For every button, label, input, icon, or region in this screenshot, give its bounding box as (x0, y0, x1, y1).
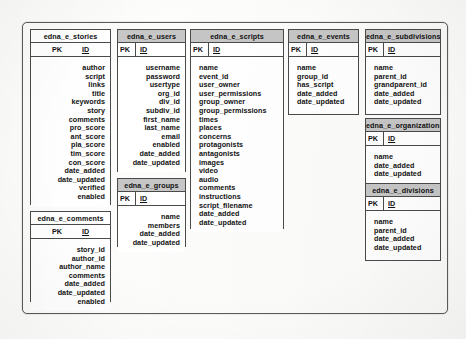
field-row: date_updated (374, 244, 435, 253)
entity-title-groups: edna_e_groups (118, 179, 185, 192)
entity-title-stories: edna_e_stories (31, 30, 110, 43)
entity-title-subdivisions: edna_e_subdivisions (366, 30, 440, 43)
pk-label-events: PK (291, 45, 306, 54)
pk-divider (383, 43, 384, 56)
entity-edna-e-subdivisions[interactable]: edna_e_subdivisions PK ID name parent_id… (365, 29, 441, 115)
entity-fields-users: username password usertype org_id div_id… (118, 57, 185, 172)
field-row: date_updated (297, 98, 353, 107)
entity-key-row-subdivisions: PK ID (366, 43, 440, 57)
pk-id-stories: ID (82, 45, 89, 54)
entity-edna-e-comments[interactable]: edna_e_comments PK ID story_id author_id… (30, 211, 111, 302)
entity-key-row-scripts: PK ID (191, 43, 283, 57)
entity-title-scripts: edna_e_scripts (191, 30, 283, 43)
entity-title-users: edna_e_users (118, 30, 185, 43)
pk-id-divisions: ID (388, 199, 395, 208)
pk-divider (383, 132, 384, 145)
field-row: enabled (36, 193, 105, 202)
pk-divider (208, 43, 209, 56)
entity-edna-e-stories[interactable]: edna_e_stories PK ID author script links… (30, 29, 111, 205)
field-row: date_updated (374, 170, 435, 179)
entity-key-row-stories: PK ID (31, 43, 110, 57)
entity-key-row-divisions: PK ID (366, 197, 440, 211)
pk-id-subdivisions: ID (388, 45, 395, 54)
pk-label-groups: PK (120, 194, 135, 203)
entity-fields-comments: story_id author_id author_name comments … (31, 239, 110, 311)
er-diagram-canvas: edna_e_stories PK ID author script links… (0, 0, 466, 339)
pk-label-organizations: PK (368, 134, 383, 143)
field-row: date_updated (374, 98, 435, 107)
entity-key-row-comments: PK ID (31, 225, 110, 239)
field-row: date_updated (199, 219, 278, 228)
pk-divider (135, 43, 136, 56)
pk-label-divisions: PK (368, 199, 383, 208)
pk-label-stories: PK (52, 45, 62, 54)
entity-fields-stories: author script links title keywords story… (31, 57, 110, 207)
pk-id-comments: ID (82, 227, 89, 236)
entity-title-organizations: edna_e_organizations (366, 119, 440, 132)
entity-fields-events: name group_id has_script date_added date… (289, 57, 358, 112)
field-row: enabled (36, 298, 105, 307)
entity-title-events: edna_e_events (289, 30, 358, 43)
field-row: date_updated (123, 239, 180, 248)
pk-divider (135, 192, 136, 205)
pk-label-comments: PK (52, 227, 62, 236)
entity-fields-groups: name members date_added date_updated (118, 206, 185, 252)
entity-edna-e-events[interactable]: edna_e_events PK ID name group_id has_sc… (288, 29, 359, 115)
entity-key-row-events: PK ID (289, 43, 358, 57)
entity-fields-scripts: name event_id user_owner user_permission… (191, 57, 283, 232)
field-row: date_updated (123, 159, 180, 168)
pk-label-scripts: PK (193, 45, 208, 54)
entity-fields-divisions: name parent_id date_added date_updated (366, 211, 440, 257)
pk-id-groups: ID (140, 194, 147, 203)
entity-edna-e-users[interactable]: edna_e_users PK ID username password use… (117, 29, 186, 172)
entity-edna-e-divisions[interactable]: edna_e_divisions PK ID name parent_id da… (365, 183, 441, 261)
pk-id-events: ID (311, 45, 318, 54)
entity-fields-organizations: name date_added date_updated (366, 146, 440, 184)
entity-edna-e-groups[interactable]: edna_e_groups PK ID name members date_ad… (117, 178, 186, 247)
pk-label-users: PK (120, 45, 135, 54)
entity-title-comments: edna_e_comments (31, 212, 110, 225)
pk-id-users: ID (140, 45, 147, 54)
pk-id-scripts: ID (213, 45, 220, 54)
pk-divider (306, 43, 307, 56)
entity-key-row-users: PK ID (118, 43, 185, 57)
pk-label-subdivisions: PK (368, 45, 383, 54)
entity-edna-e-scripts[interactable]: edna_e_scripts PK ID name event_id user_… (190, 29, 284, 229)
pk-id-organizations: ID (388, 134, 395, 143)
entity-title-divisions: edna_e_divisions (366, 184, 440, 197)
entity-fields-subdivisions: name parent_id grandparent_id date_added… (366, 57, 440, 112)
entity-key-row-groups: PK ID (118, 192, 185, 206)
pk-divider (383, 197, 384, 210)
entity-key-row-organizations: PK ID (366, 132, 440, 146)
